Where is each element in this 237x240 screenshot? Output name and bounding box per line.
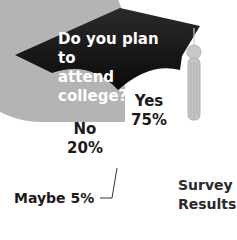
- no-value: 20%: [60, 139, 110, 158]
- chart-caption: Survey Results: [178, 176, 237, 214]
- title-line-1: Do you plan to: [58, 30, 178, 68]
- no-label: No: [60, 120, 110, 139]
- yes-value: 75%: [124, 111, 174, 130]
- no-slice-label: No 20%: [60, 120, 110, 158]
- maybe-slice-label: Maybe 5%: [14, 189, 104, 208]
- yes-slice-label: Yes 75%: [124, 92, 174, 130]
- caption-line-2: Results: [178, 195, 237, 214]
- yes-label: Yes: [124, 92, 174, 111]
- caption-line-1: Survey: [178, 176, 237, 195]
